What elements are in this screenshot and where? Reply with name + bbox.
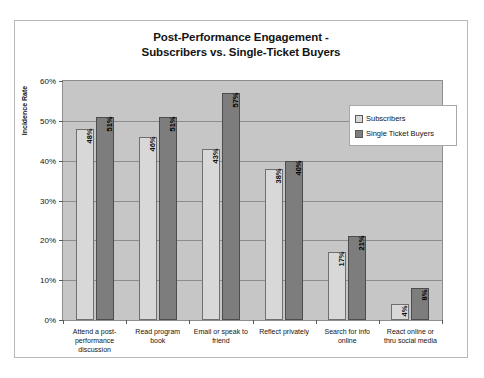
bar: 40% (285, 161, 303, 320)
x-category-label-line: React online or (373, 327, 448, 336)
legend-swatch-icon (355, 130, 363, 138)
y-tick-label: 60% (40, 77, 56, 86)
x-tick-mark (189, 320, 190, 324)
legend-swatch-icon (355, 115, 363, 123)
y-tick-label: 40% (40, 156, 56, 165)
x-category-label-line: discussion (57, 345, 132, 354)
bar: 43% (202, 149, 220, 320)
bar-value-label: 17% (337, 252, 346, 267)
chart-container: Post-Performance Engagement - Subscriber… (14, 20, 468, 358)
bar-value-label: 4% (400, 306, 409, 317)
chart-title-line-1: Post-Performance Engagement - (15, 30, 467, 45)
bar-value-label: 8% (420, 290, 429, 301)
x-tick-mark (316, 320, 317, 324)
x-category-label-line: thru social media (373, 336, 448, 345)
bar-group: 38%40% (253, 81, 316, 320)
bar-group: 48%51% (63, 81, 126, 320)
bar-value-label: 21% (357, 236, 366, 251)
bar-value-label: 46% (148, 136, 157, 151)
y-tick-label: 0% (44, 316, 56, 325)
x-category-label-line: friend (183, 336, 258, 345)
bar-value-label: 57% (231, 92, 240, 107)
bar-group: 43%57% (189, 81, 252, 320)
bar-value-label: 48% (85, 128, 94, 143)
legend-label: Subscribers (366, 114, 406, 123)
bar: 51% (96, 117, 114, 320)
bar: 51% (159, 117, 177, 320)
y-tick-label: 30% (40, 196, 56, 205)
bar-value-label: 51% (168, 116, 177, 131)
x-category-label: React online orthru social media (373, 327, 448, 345)
bar-value-label: 38% (274, 168, 283, 183)
bar-value-label: 51% (105, 116, 114, 131)
bar: 21% (348, 236, 366, 320)
x-tick-mark (442, 320, 443, 324)
bar-value-label: 40% (294, 160, 303, 175)
x-tick-mark (379, 320, 380, 324)
y-tick-label: 50% (40, 116, 56, 125)
bar: 38% (265, 169, 283, 320)
bar: 57% (222, 93, 240, 320)
bar: 17% (328, 252, 346, 320)
chart-title: Post-Performance Engagement - Subscriber… (15, 30, 467, 59)
legend-item-single-ticket-buyers: Single Ticket Buyers (355, 129, 452, 138)
y-tick-label: 20% (40, 236, 56, 245)
bar: 46% (139, 137, 157, 320)
y-tick-label: 10% (40, 276, 56, 285)
chart-title-line-2: Subscribers vs. Single-Ticket Buyers (15, 45, 467, 60)
bar-value-label: 43% (211, 148, 220, 163)
chart-legend: Subscribers Single Ticket Buyers (349, 105, 457, 146)
bar: 8% (411, 288, 429, 320)
legend-label: Single Ticket Buyers (366, 129, 434, 138)
x-tick-mark (126, 320, 127, 324)
bar-group: 46%51% (126, 81, 189, 320)
y-axis-title: Incidence Rate (21, 76, 28, 146)
bar: 48% (76, 129, 94, 320)
x-tick-mark (63, 320, 64, 324)
x-tick-mark (253, 320, 254, 324)
legend-item-subscribers: Subscribers (355, 114, 452, 123)
bar: 4% (391, 304, 409, 320)
